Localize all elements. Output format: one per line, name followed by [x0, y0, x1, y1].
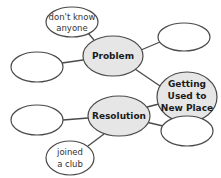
resolution-label: Resolution — [92, 111, 146, 121]
story-map-diagram: don't know anyone Problem Getting Used t… — [0, 0, 221, 178]
edge-problem-to-center — [135, 69, 160, 86]
resolution-detail-line-2: a club — [57, 159, 83, 169]
center-line-1: Getting — [168, 79, 206, 89]
edge-problem-to-empty-left — [62, 60, 83, 63]
edge-problem-to-empty-right — [141, 42, 160, 50]
node-problem: Problem — [83, 36, 143, 76]
center-line-3: New Place — [161, 103, 213, 113]
node-problem-empty-right[interactable] — [158, 23, 210, 51]
edge-resolution-to-detail — [88, 134, 104, 146]
node-resolution-empty-right[interactable] — [161, 116, 213, 146]
edge-resolution-to-center — [147, 104, 159, 107]
problem-detail-line-2: anyone — [56, 23, 87, 33]
node-resolution: Resolution — [88, 96, 150, 136]
node-problem-detail: don't know anyone — [46, 7, 98, 37]
problem-detail-line-1: don't know — [49, 12, 96, 22]
problem-label: Problem — [92, 51, 134, 61]
node-center-topic: Getting Used to New Place — [157, 72, 217, 122]
node-resolution-detail: joined a club — [46, 141, 94, 175]
node-resolution-empty-left[interactable] — [11, 105, 63, 135]
edge-resolution-to-empty-left — [63, 118, 88, 120]
center-line-2: Used to — [168, 91, 207, 101]
node-problem-empty-left[interactable] — [11, 52, 63, 82]
resolution-detail-line-1: joined — [56, 147, 83, 157]
